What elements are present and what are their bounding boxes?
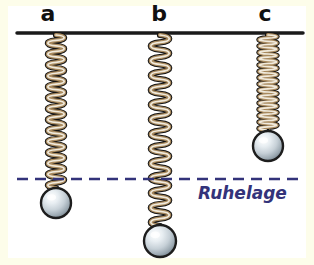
pendulum-ball-b: [144, 225, 176, 257]
pendulum-label-b: b: [151, 1, 167, 26]
ball-highlight-b: [150, 232, 160, 239]
pendulum-label-a: a: [41, 1, 56, 26]
ball-sphere-b: [144, 225, 176, 257]
figure-root: abc Ruhelage: [0, 0, 314, 265]
ruhelage-label: Ruhelage: [198, 183, 287, 203]
ball-highlight-a: [47, 194, 56, 200]
pendulum-ball-c: [253, 131, 283, 161]
pendulum-ball-a: [41, 188, 71, 218]
ball-sphere-c: [253, 131, 283, 161]
pendulum-diagram-svg: abc Ruhelage: [0, 0, 314, 265]
ball-sphere-a: [41, 188, 71, 218]
pendulum-label-c: c: [258, 1, 271, 26]
ball-highlight-c: [259, 137, 268, 143]
